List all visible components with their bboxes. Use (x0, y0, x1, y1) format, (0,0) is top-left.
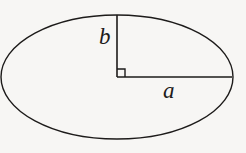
semi-major-axis-label: a (163, 79, 175, 102)
right-angle-marker-icon (117, 69, 125, 77)
ellipse-diagram-svg (0, 0, 246, 153)
ellipse-figure: b a (0, 0, 246, 153)
semi-minor-axis-label: b (99, 25, 111, 48)
